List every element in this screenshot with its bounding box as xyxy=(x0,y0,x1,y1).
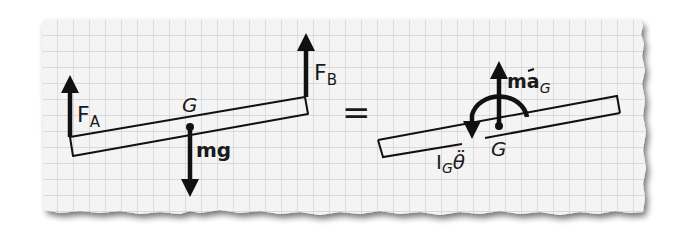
diagram-canvas: FA FB G mg = maG G IGθ̈ xyxy=(0,0,681,231)
equals-sign: = xyxy=(342,92,371,132)
label-center-g-left: G xyxy=(182,93,198,117)
label-center-g-right: G xyxy=(491,137,507,161)
label-weight: mg xyxy=(196,138,231,162)
